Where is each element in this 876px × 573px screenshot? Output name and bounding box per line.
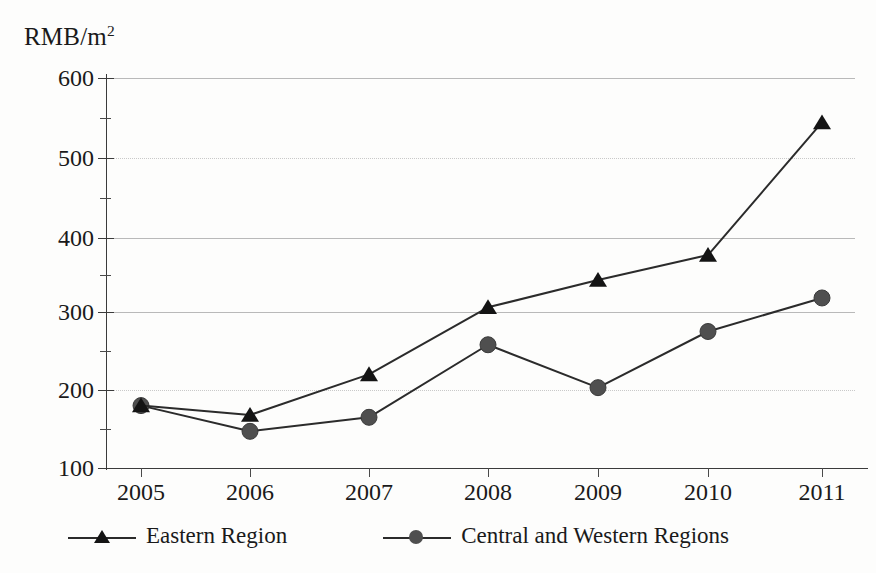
series-line	[141, 298, 822, 431]
data-point-marker	[361, 409, 377, 425]
data-point-marker	[814, 290, 830, 306]
data-point-marker	[360, 366, 378, 381]
data-point-marker	[480, 337, 496, 353]
chart-figure: RMB/m2 600 500 400 300 200 100 2005 2006…	[0, 0, 876, 573]
series-line	[141, 122, 822, 415]
legend-item-central-and-western-regions: Central and Western Regions	[383, 522, 729, 552]
chart-legend: Eastern Region Central and Western Regio…	[60, 517, 850, 557]
legend-label-eastern-region: Eastern Region	[146, 522, 287, 552]
data-point-marker	[700, 324, 716, 340]
data-point-marker	[590, 380, 606, 396]
legend-item-eastern-region: Eastern Region	[68, 522, 287, 552]
legend-label-central-and-western-regions: Central and Western Regions	[461, 522, 729, 552]
series-eastern-region	[132, 114, 831, 421]
data-point-marker	[242, 423, 258, 439]
series-layer	[0, 0, 876, 573]
data-point-marker	[813, 114, 831, 129]
legend-swatch-triangle-icon	[68, 526, 136, 548]
legend-swatch-circle-icon	[383, 526, 451, 548]
